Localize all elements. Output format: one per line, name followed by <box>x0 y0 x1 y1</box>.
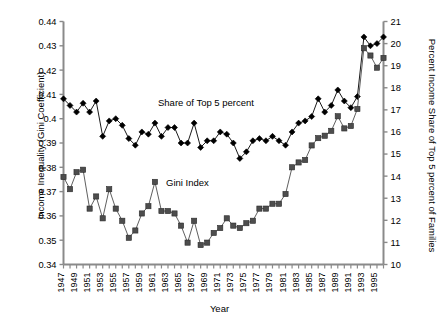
series-line <box>64 48 384 245</box>
data-point-marker <box>329 128 334 133</box>
data-point-marker <box>296 160 301 165</box>
y-axis-left-title: Income Inequality (Gini Coefficient) <box>35 46 46 246</box>
series-label-gini-index: Gini Index <box>166 177 209 188</box>
chart-plot-area: 0.340.350.360.370.380.390.40.410.420.430… <box>0 0 439 324</box>
data-point-marker <box>185 240 190 245</box>
x-axis-tick-label: 1987 <box>317 273 327 293</box>
x-axis-tick-label: 1953 <box>95 273 105 293</box>
data-point-marker <box>165 208 170 213</box>
x-axis-tick-label: 1977 <box>251 273 261 293</box>
x-axis-title: Year <box>0 303 439 314</box>
series-label-share-of-top-5-percent: Share of Top 5 percent <box>158 97 254 108</box>
x-axis-tick-label: 1959 <box>134 273 144 293</box>
data-point-marker <box>126 235 131 240</box>
data-point-marker <box>113 206 118 211</box>
data-point-marker <box>256 136 262 142</box>
y-axis-right-tick-label: 20 <box>391 39 401 49</box>
data-point-marker <box>159 208 164 213</box>
x-axis-tick-label: 1967 <box>186 273 196 293</box>
data-point-marker <box>120 218 125 223</box>
data-point-marker <box>361 46 366 51</box>
data-point-marker <box>74 170 79 175</box>
data-point-marker <box>276 201 281 206</box>
data-point-marker <box>309 143 314 148</box>
x-axis-tick-label: 1947 <box>56 273 66 293</box>
data-point-marker <box>87 206 92 211</box>
data-point-marker <box>191 120 197 126</box>
y-axis-right-tick-label: 12 <box>391 216 401 226</box>
x-axis-tick-label: 1973 <box>225 273 235 293</box>
x-axis-tick-label: 1965 <box>173 273 183 293</box>
x-axis-tick-label: 1985 <box>304 273 314 293</box>
y-axis-right-title: Percent Income Share of Top 5 percent of… <box>427 16 438 276</box>
data-point-marker <box>381 55 386 60</box>
x-axis-tick-label: 1969 <box>199 273 209 293</box>
data-point-marker <box>61 174 66 179</box>
data-point-marker <box>270 201 275 206</box>
data-point-marker <box>289 165 294 170</box>
data-point-marker <box>145 131 151 137</box>
data-point-marker <box>303 157 308 162</box>
data-point-marker <box>67 187 72 192</box>
x-axis-tick-label: 1995 <box>369 273 379 293</box>
data-point-marker <box>224 216 229 221</box>
data-point-marker <box>348 123 353 128</box>
data-point-marker <box>139 211 144 216</box>
x-axis-tick-label: 1975 <box>238 273 248 293</box>
x-axis-tick-label: 1951 <box>82 273 92 293</box>
data-point-marker <box>106 118 112 124</box>
y-axis-left-tick-label: 0.4 <box>44 114 57 124</box>
data-point-marker <box>218 225 223 230</box>
y-axis-right-tick-label: 16 <box>391 127 401 137</box>
data-point-marker <box>283 142 289 148</box>
data-point-marker <box>172 211 177 216</box>
data-point-marker <box>107 187 112 192</box>
data-point-marker <box>374 65 379 70</box>
data-point-marker <box>178 140 184 146</box>
data-point-marker <box>335 114 340 119</box>
y-axis-right-tick-label: 11 <box>391 238 401 248</box>
y-axis-right-tick-label: 21 <box>391 17 401 27</box>
data-point-marker <box>322 133 327 138</box>
y-axis-left-tick-label: 0.44 <box>38 17 56 27</box>
data-point-marker <box>276 138 282 144</box>
x-axis-tick-label: 1991 <box>343 273 353 293</box>
y-axis-right-tick-label: 15 <box>391 149 401 159</box>
data-point-marker <box>309 113 315 119</box>
x-axis-tick-label: 1961 <box>147 273 157 293</box>
data-point-marker <box>263 138 269 144</box>
data-point-marker <box>172 125 178 131</box>
income-inequality-chart: 0.340.350.360.370.380.390.40.410.420.430… <box>0 0 439 324</box>
data-point-marker <box>354 94 360 100</box>
x-axis-tick-label: 1949 <box>69 273 79 293</box>
data-point-marker <box>94 194 99 199</box>
data-point-marker <box>368 53 373 58</box>
data-point-marker <box>205 240 210 245</box>
data-point-marker <box>211 230 216 235</box>
x-axis-tick-label: 1971 <box>212 273 222 293</box>
data-point-marker <box>139 129 145 135</box>
y-axis-right-tick-label: 17 <box>391 105 401 115</box>
y-axis-right-tick-label: 13 <box>391 194 401 204</box>
x-axis-tick-label: 1989 <box>330 273 340 293</box>
y-axis-right-tick-label: 10 <box>391 260 401 270</box>
x-axis-tick-label: 1963 <box>160 273 170 293</box>
data-point-marker <box>178 223 183 228</box>
data-point-marker <box>80 167 85 172</box>
data-point-marker <box>231 223 236 228</box>
y-axis-right-tick-label: 18 <box>391 83 401 93</box>
data-point-marker <box>302 118 308 124</box>
x-axis-tick-label: 1981 <box>278 273 288 293</box>
data-point-marker <box>355 106 360 111</box>
data-point-marker <box>250 138 256 144</box>
series-gini-index <box>61 46 386 248</box>
x-axis-tick-label: 1957 <box>121 273 131 293</box>
data-point-marker <box>152 179 157 184</box>
data-point-marker <box>192 218 197 223</box>
y-axis-left-tick-label: 0.34 <box>38 260 56 270</box>
data-point-marker <box>257 206 262 211</box>
data-point-marker <box>342 126 347 131</box>
data-point-marker <box>100 133 106 139</box>
x-axis-tick-label: 1955 <box>108 273 118 293</box>
data-point-marker <box>185 140 191 146</box>
